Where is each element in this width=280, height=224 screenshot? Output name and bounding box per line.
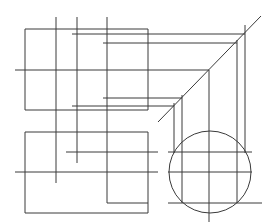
- projection-lines: [15, 16, 262, 222]
- technical-drawing: [0, 0, 280, 224]
- view-outlines: [25, 29, 148, 213]
